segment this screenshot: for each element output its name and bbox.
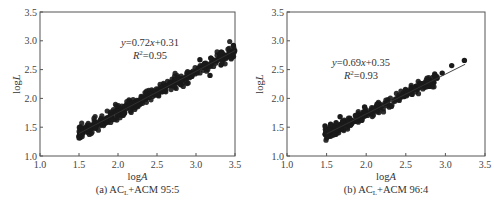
y-tick-label: 2.0 (272, 93, 285, 104)
x-tick-label: 3.0 (439, 159, 452, 170)
x-tick-label: 2.0 (112, 159, 125, 170)
x-tick-label: 2.0 (360, 159, 373, 170)
x-tick-label: 3.5 (229, 159, 242, 170)
r-squared-label: R2=0.93 (343, 69, 378, 81)
y-tick-label: 3.0 (272, 35, 285, 46)
y-tick-label: 1.5 (25, 122, 38, 133)
x-axis-title: logA (128, 171, 148, 182)
x-tick-label: 2.5 (151, 159, 164, 170)
regression-equation: y=0.69x+0.35 (331, 57, 390, 68)
y-tick-label: 3.0 (25, 35, 38, 46)
scatter-panel-a: 1.01.52.02.53.03.51.01.52.02.53.03.5logA… (0, 0, 247, 200)
plot-frame (287, 12, 485, 156)
y-axis-title: logL (254, 74, 265, 93)
scatter-chart-a: 1.01.52.02.53.03.51.01.52.02.53.03.5logA… (0, 0, 247, 200)
x-tick-label: 3.5 (479, 159, 492, 170)
axis-ticks: 1.01.52.02.53.03.51.01.52.02.53.03.5 (25, 7, 242, 171)
y-tick-label: 2.5 (272, 64, 285, 75)
scatter-panel-b: 1.01.52.02.53.03.51.01.52.02.53.03.5logA… (247, 0, 494, 200)
regression-equation: y=0.72x+0.31 (120, 37, 179, 48)
r-squared-label: R2=0.95 (132, 49, 167, 61)
y-tick-label: 1.0 (25, 151, 38, 162)
x-tick-label: 3.0 (190, 159, 203, 170)
y-tick-label: 3.5 (25, 7, 38, 18)
y-tick-label: 2.0 (25, 93, 38, 104)
y-tick-label: 3.5 (272, 7, 285, 18)
panel-caption: (a) ACL+ACM 95:5 (96, 184, 180, 197)
x-tick-label: 2.5 (400, 159, 413, 170)
regression-line (79, 51, 235, 134)
x-tick-label: 1.5 (73, 159, 86, 170)
x-axis-title: logA (376, 171, 396, 182)
x-tick-label: 1.5 (320, 159, 333, 170)
panel-caption: (b) ACL+ACM 96:4 (344, 184, 429, 197)
scatter-chart-b: 1.01.52.02.53.03.51.01.52.02.53.03.5logA… (247, 0, 494, 200)
y-tick-label: 1.5 (272, 122, 285, 133)
y-tick-label: 2.5 (25, 64, 38, 75)
axis-ticks: 1.01.52.02.53.03.51.01.52.02.53.03.5 (272, 7, 492, 171)
plot-frame (40, 12, 235, 156)
y-tick-label: 1.0 (272, 151, 285, 162)
y-axis-title: logL (11, 74, 22, 93)
